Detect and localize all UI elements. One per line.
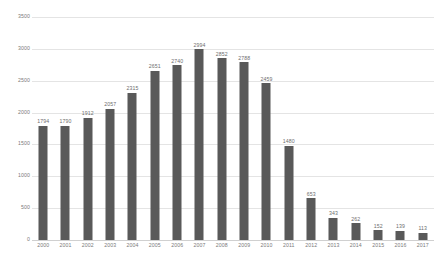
bar[interactable]	[61, 126, 70, 240]
bar-value-label: 2057	[104, 102, 116, 107]
bar-value-label: 262	[351, 217, 360, 222]
bar[interactable]	[284, 146, 293, 240]
x-tick-label: 2001	[60, 243, 72, 248]
x-tick-label: 2004	[127, 243, 139, 248]
bar-slot: 2740	[166, 17, 188, 240]
x-tick-label: 2017	[417, 243, 429, 248]
x-tick-label: 2014	[350, 243, 362, 248]
bar-value-label: 1480	[283, 139, 295, 144]
y-tick-label: 2500	[2, 78, 30, 83]
bar-value-label: 1912	[82, 111, 94, 116]
x-tick-label: 2005	[149, 243, 161, 248]
x-tick-label: 2011	[283, 243, 295, 248]
bar[interactable]	[307, 198, 316, 240]
bar[interactable]	[106, 109, 115, 240]
x-tick-label: 2008	[216, 243, 228, 248]
x-tick-label: 2002	[82, 243, 94, 248]
bar[interactable]	[128, 93, 137, 240]
bar[interactable]	[217, 58, 226, 240]
bar-slot: 653	[300, 17, 322, 240]
x-tick-label: 2010	[261, 243, 273, 248]
bar-value-label: 1790	[60, 119, 72, 124]
bar-value-label: 2315	[127, 86, 139, 91]
bar-slot: 152	[367, 17, 389, 240]
bar-value-label: 152	[374, 224, 383, 229]
bar-slot: 2315	[121, 17, 143, 240]
bar-slot: 1790	[54, 17, 76, 240]
y-axis: 0500100015002000250030003500	[0, 17, 30, 240]
bar-value-label: 1794	[37, 119, 49, 124]
bar[interactable]	[396, 231, 405, 240]
y-tick-label: 1500	[2, 142, 30, 147]
bar-value-label: 343	[329, 211, 338, 216]
x-tick-label: 2006	[171, 243, 183, 248]
bar-slot: 2057	[99, 17, 121, 240]
bar-value-label: 113	[419, 226, 428, 231]
bar-slot: 262	[345, 17, 367, 240]
x-tick-label: 2015	[372, 243, 384, 248]
x-tick-label: 2016	[395, 243, 407, 248]
y-tick-label: 3000	[2, 46, 30, 51]
bar-value-label: 2740	[171, 59, 183, 64]
x-tick-label: 2009	[238, 243, 250, 248]
bar[interactable]	[173, 65, 182, 240]
bar-value-label: 2994	[194, 43, 206, 48]
x-tick-label: 2013	[328, 243, 340, 248]
bar-slot: 113	[412, 17, 434, 240]
y-tick-label: 2000	[2, 110, 30, 115]
bar[interactable]	[351, 223, 360, 240]
bar[interactable]	[262, 83, 271, 240]
bar-value-label: 139	[396, 224, 405, 229]
x-tick-label: 2007	[194, 243, 206, 248]
bar-value-label: 2651	[149, 64, 161, 69]
bar-slot: 2651	[144, 17, 166, 240]
bar[interactable]	[83, 118, 92, 240]
bar-slot: 2994	[188, 17, 210, 240]
y-tick-label: 0	[2, 237, 30, 242]
bar-slot: 343	[322, 17, 344, 240]
bar-value-label: 2459	[261, 77, 273, 82]
bar-slot: 2788	[233, 17, 255, 240]
bar-value-label: 2788	[238, 56, 250, 61]
x-axis: 2000200120022003200420052006200720082009…	[32, 243, 434, 257]
bar[interactable]	[329, 218, 338, 240]
bar[interactable]	[240, 62, 249, 240]
y-tick-label: 3500	[2, 14, 30, 19]
bars-layer: 1794179019122057231526512740299428522788…	[32, 17, 434, 240]
bar[interactable]	[195, 49, 204, 240]
bar[interactable]	[374, 230, 383, 240]
bar[interactable]	[39, 126, 48, 240]
bar-slot: 1912	[77, 17, 99, 240]
bar-slot: 2852	[211, 17, 233, 240]
x-tick-label: 2003	[104, 243, 116, 248]
bar[interactable]	[418, 233, 427, 240]
bar-slot: 2459	[255, 17, 277, 240]
bar-chart: 0500100015002000250030003500 17941790191…	[0, 0, 441, 264]
axis-baseline	[32, 240, 434, 241]
bar[interactable]	[150, 71, 159, 240]
bar-slot: 139	[389, 17, 411, 240]
bar-value-label: 653	[307, 192, 316, 197]
bar-slot: 1794	[32, 17, 54, 240]
y-tick-label: 1000	[2, 174, 30, 179]
bar-value-label: 2852	[216, 52, 228, 57]
bar-slot: 1480	[278, 17, 300, 240]
x-tick-label: 2012	[305, 243, 317, 248]
y-tick-label: 500	[2, 206, 30, 211]
x-tick-label: 2000	[37, 243, 49, 248]
